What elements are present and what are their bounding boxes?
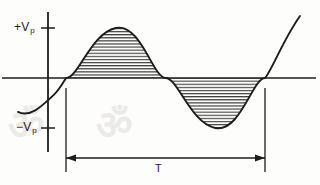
sine-wave-figure: ॐ ॐ (0, 0, 320, 185)
label-peak-negative: −Vp (16, 120, 37, 135)
label-peak-positive-symbol: V (21, 20, 29, 34)
label-peak-positive: +Vp (14, 20, 35, 35)
sine-curve (18, 16, 300, 128)
label-peak-negative-symbol: V (23, 120, 31, 134)
shaded-positive-half-cycle (60, 22, 172, 80)
shaded-negative-half-cycle (160, 76, 272, 134)
label-peak-negative-subscript: p (32, 126, 37, 135)
waveform-canvas (0, 0, 320, 185)
label-peak-positive-subscript: p (30, 26, 35, 35)
label-period: T (155, 162, 162, 174)
period-dimension-line (66, 155, 265, 162)
